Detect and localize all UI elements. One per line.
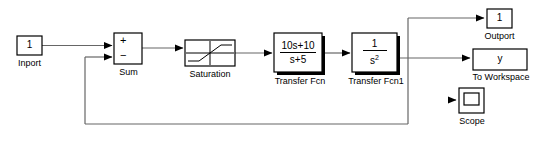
- transfer-fcn1-denominator-exponent: 2: [375, 54, 379, 61]
- to-workspace-label: To Workspace: [462, 72, 540, 82]
- scope-label: Scope: [446, 116, 498, 126]
- transfer-fcn1-label: Transfer Fcn1: [339, 76, 413, 86]
- transfer-fcn1-expression: 1 s2: [354, 36, 395, 69]
- transfer-fcn-numerator: 10s+10: [279, 40, 316, 51]
- transfer-fcn-denominator: s+5: [288, 54, 308, 65]
- outport-value: 1: [487, 12, 512, 23]
- to-workspace-value: y: [473, 53, 527, 64]
- sum-minus-sign: −: [120, 50, 126, 61]
- sum-label: Sum: [101, 67, 156, 77]
- transfer-fcn1-numerator: 1: [370, 38, 380, 49]
- block-diagram-canvas: 1 Inport + − Sum Saturation 10s+10 s+5 T…: [0, 0, 544, 149]
- outport-label: Outport: [472, 31, 527, 41]
- sum-plus-sign: +: [120, 35, 126, 46]
- scope-screen-icon: [464, 93, 479, 105]
- transfer-fcn-expression: 10s+10 s+5: [276, 36, 320, 69]
- block-sum[interactable]: [114, 33, 142, 64]
- transfer-fcn1-fraction-bar: [363, 50, 387, 51]
- inport-value: 1: [17, 39, 42, 50]
- transfer-fcn-fraction-bar: [280, 52, 316, 53]
- transfer-fcn1-denominator: s2: [368, 52, 381, 66]
- saturation-label: Saturation: [180, 69, 240, 79]
- inport-label: Inport: [2, 58, 57, 68]
- transfer-fcn-label: Transfer Fcn: [265, 76, 335, 86]
